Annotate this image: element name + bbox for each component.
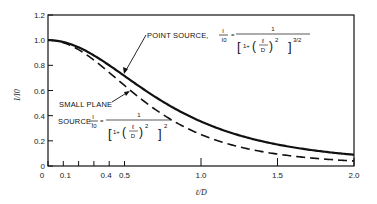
x-tick-label: 1.5 bbox=[272, 171, 284, 180]
svg-text:1: 1 bbox=[137, 112, 141, 118]
svg-text:SOURCE,: SOURCE, bbox=[58, 117, 94, 126]
y-tick-label: 1.0 bbox=[34, 36, 46, 45]
x-axis-title: ℓ/D bbox=[195, 188, 207, 197]
x-axis-ticks: 00.10.40.51.01.52.0 bbox=[40, 158, 360, 180]
point-source-curve bbox=[48, 40, 354, 155]
svg-text:=: = bbox=[231, 32, 235, 38]
line-chart: 00.20.40.60.81.01.2 00.10.40.51.01.52.0 … bbox=[0, 0, 377, 204]
x-tick-label: 1.0 bbox=[195, 171, 207, 180]
y-axis-ticks: 00.20.40.60.81.01.2 bbox=[34, 11, 53, 171]
svg-text:SMALL PLANE: SMALL PLANE bbox=[59, 100, 112, 109]
y-tick-label: 0.4 bbox=[34, 112, 46, 121]
x-tick-label: 0 bbox=[40, 171, 45, 180]
x-tick-label: 2.0 bbox=[348, 171, 360, 180]
small-plane-annotation: SMALL PLANE SOURCE, I I0 = 1 [ 1+ ( ℓ D … bbox=[58, 91, 172, 141]
svg-text:D: D bbox=[131, 133, 136, 139]
arrowhead-icon bbox=[124, 91, 130, 96]
svg-text:POINT SOURCE,: POINT SOURCE, bbox=[147, 31, 209, 40]
svg-text:I: I bbox=[92, 114, 94, 120]
svg-text:I0: I0 bbox=[91, 123, 97, 129]
point-source-arrow bbox=[125, 35, 146, 72]
svg-text:1+: 1+ bbox=[243, 43, 250, 49]
svg-text:[: [ bbox=[237, 39, 241, 54]
x-tick-label: 0.5 bbox=[119, 171, 131, 180]
svg-text:2: 2 bbox=[275, 37, 279, 43]
svg-text:1: 1 bbox=[271, 26, 275, 32]
svg-text:): ) bbox=[139, 125, 143, 139]
svg-text:[: [ bbox=[108, 126, 112, 141]
svg-text:3/2: 3/2 bbox=[293, 37, 302, 43]
y-axis-title: I/I0 bbox=[13, 89, 22, 102]
y-tick-label: 0 bbox=[41, 162, 46, 171]
svg-text:]: ] bbox=[288, 39, 292, 54]
svg-text:2: 2 bbox=[164, 123, 168, 129]
svg-text:2: 2 bbox=[145, 123, 149, 129]
svg-text:): ) bbox=[269, 39, 273, 53]
svg-text:1+: 1+ bbox=[113, 129, 120, 135]
svg-text:]: ] bbox=[158, 126, 162, 141]
svg-text:=: = bbox=[100, 118, 104, 124]
svg-text:I0: I0 bbox=[221, 37, 227, 43]
svg-text:(: ( bbox=[122, 125, 126, 139]
svg-text:I: I bbox=[222, 28, 224, 34]
point-source-annotation: POINT SOURCE, I I0 = 1 [ 1+ ( ℓ D ) 2 ] … bbox=[123, 26, 310, 74]
svg-text:(: ( bbox=[252, 39, 256, 53]
y-tick-label: 0.2 bbox=[34, 137, 46, 146]
y-tick-label: 1.2 bbox=[34, 11, 46, 20]
x-tick-label: 0.4 bbox=[101, 171, 113, 180]
svg-text:ℓ: ℓ bbox=[262, 38, 264, 44]
y-tick-label: 0.6 bbox=[34, 87, 46, 96]
svg-text:I/I0: I/I0 bbox=[13, 89, 22, 102]
svg-text:ℓ: ℓ bbox=[132, 124, 134, 130]
svg-text:D: D bbox=[261, 47, 266, 53]
x-tick-label: 0.1 bbox=[60, 171, 72, 180]
y-tick-label: 0.8 bbox=[34, 61, 46, 70]
